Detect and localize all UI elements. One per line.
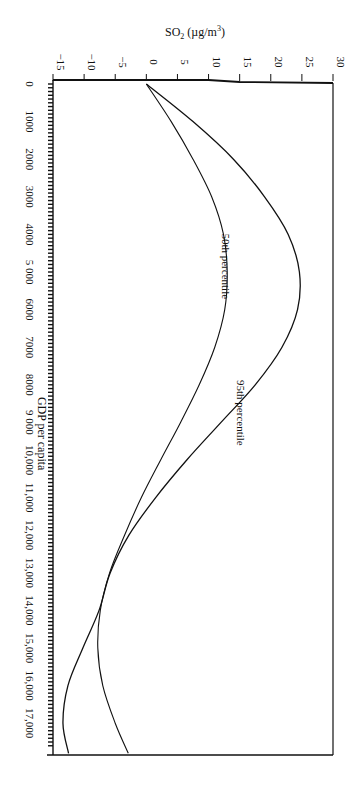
so2-tick-label: −15 — [55, 53, 67, 71]
gdp-tick-label: 6000 — [24, 299, 36, 322]
gdp-tick-label: 0 — [24, 81, 36, 87]
gdp-tick-label: 9 000 — [24, 410, 36, 435]
gdp-tick-label: 15,000 — [24, 633, 36, 664]
gdp-axis-title: GDP per capita — [35, 397, 49, 471]
so2-tick-label: −5 — [117, 56, 129, 68]
gdp-tick-label: 11,000 — [24, 483, 36, 513]
so2-tick-label: 15 — [242, 57, 254, 69]
gdp-tick-label: 5 000 — [24, 260, 36, 285]
so2-tick-label: 20 — [273, 57, 285, 69]
gdp-tick-label: 16,000 — [24, 670, 36, 701]
so2-tick-label: 25 — [304, 57, 316, 69]
so2-axis-line — [53, 80, 333, 83]
line-50th-percentile — [98, 84, 228, 753]
so2-axis-ticks: −15−10−5051015202530 — [53, 53, 347, 81]
so2-axis-title-text: SO2 (µg/m3) — [165, 24, 225, 41]
so2-tick-label: 0 — [148, 59, 160, 65]
gdp-tick-label: 17,000 — [24, 708, 36, 739]
series-lines — [63, 84, 300, 753]
so2-tick-label: 30 — [335, 57, 347, 69]
so2-tick-label: 10 — [211, 57, 223, 69]
gdp-tick-label: 1000 — [24, 111, 36, 134]
gdp-tick-label: 3000 — [24, 186, 36, 209]
gdp-tick-label: 2000 — [24, 148, 36, 171]
gdp-tick-label: 12,000 — [24, 520, 36, 551]
gdp-tick-label: 7000 — [24, 336, 36, 359]
so2-axis-title-part: SO — [165, 25, 181, 39]
plot-frame — [47, 80, 333, 755]
so2-axis-title-part: (µg/m — [184, 25, 217, 39]
series-labels: 50th percentile95th percentile — [220, 233, 248, 445]
gdp-tick-label: 14,000 — [24, 595, 36, 626]
gdp-axis-ticks: 010002000300040005 0006000700080009 0001… — [24, 81, 36, 739]
so2-axis-title: SO2 (µg/m3) — [165, 24, 225, 41]
so2-axis-title-part: ) — [221, 25, 225, 39]
gdp-tick-label: 10,000 — [24, 445, 36, 476]
so2-tick-label: −10 — [86, 53, 98, 71]
label-50th-percentile: 50th percentile — [220, 233, 232, 299]
gdp-tick-label: 8000 — [24, 374, 36, 397]
gdp-tick-label: 4000 — [24, 223, 36, 246]
label-95th-percentile: 95th percentile — [235, 380, 247, 446]
so2-tick-label: 5 — [179, 59, 191, 65]
chart: SO2 (µg/m3) −15−10−5051015202530 0100020… — [0, 0, 351, 808]
gdp-tick-label: 13,000 — [24, 558, 36, 589]
